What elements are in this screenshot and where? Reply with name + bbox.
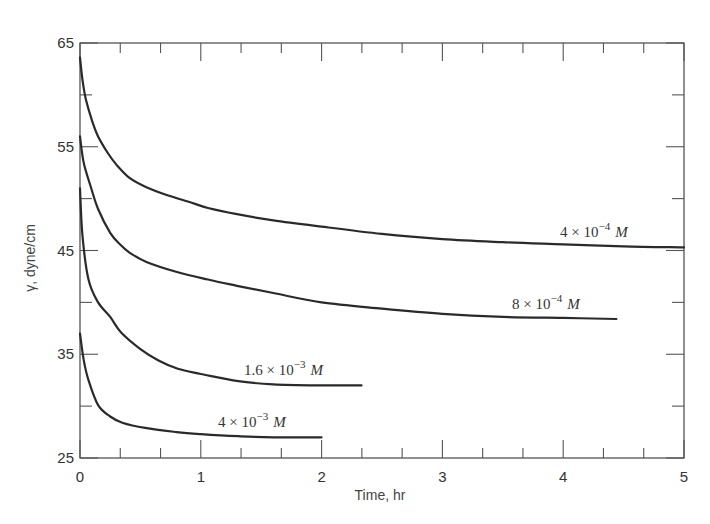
curve-label-1: 8 × 10−4M [512, 292, 581, 312]
y-axis-title: γ, dyne/cm [22, 224, 38, 292]
x-tick-label: 0 [76, 468, 84, 485]
surface-tension-chart: 0123452535455565 4 × 10−4M8 × 10−4M1.6 ×… [0, 0, 710, 524]
curve-label-2: 1.6 × 10−3M [244, 358, 324, 378]
x-tick-label: 5 [680, 468, 688, 485]
plot-frame [80, 43, 684, 458]
x-tick-label: 3 [438, 468, 446, 485]
x-tick-label: 4 [559, 468, 567, 485]
x-axis-title: Time, hr [355, 487, 406, 503]
curve-label-0: 4 × 10−4M [560, 220, 629, 240]
curve-label-3: 4 × 10−3M [218, 410, 287, 430]
y-tick-label: 65 [57, 34, 74, 51]
tick-labels: 0123452535455565 [57, 34, 688, 485]
y-tick-label: 25 [57, 449, 74, 466]
x-tick-label: 2 [317, 468, 325, 485]
x-tick-label: 1 [197, 468, 205, 485]
y-tick-label: 45 [57, 242, 74, 259]
curve-series-2 [80, 188, 362, 385]
y-tick-label: 55 [57, 138, 74, 155]
axis-ticks [80, 43, 684, 458]
data-curves [80, 58, 684, 438]
curve-series-0 [80, 58, 684, 248]
y-tick-label: 35 [57, 345, 74, 362]
curve-labels: 4 × 10−4M8 × 10−4M1.6 × 10−3M4 × 10−3M [218, 220, 629, 430]
curve-series-1 [80, 136, 616, 319]
